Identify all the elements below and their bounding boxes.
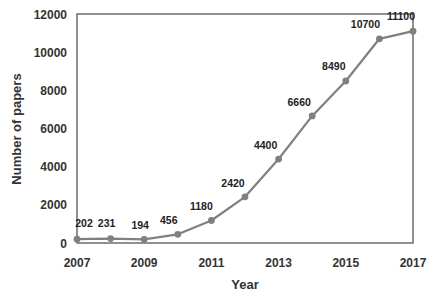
line-chart: 020004000600080001000012000 200720092011…: [0, 0, 437, 302]
data-label: 6660: [288, 96, 312, 108]
x-tick-label: 2011: [198, 256, 224, 270]
y-axis-ticks: 020004000600080001000012000: [34, 8, 68, 251]
data-point-marker: [174, 231, 181, 238]
x-tick-label: 2009: [131, 256, 158, 270]
plot-area-frame: [77, 14, 413, 243]
x-tick-label: 2015: [332, 256, 359, 270]
x-tick-label: 2017: [400, 256, 427, 270]
data-label: 456: [160, 214, 178, 226]
data-point-marker: [309, 113, 316, 120]
plot-border: [77, 14, 413, 243]
y-axis-title: Number of papers: [9, 73, 24, 184]
data-label: 4400: [254, 139, 278, 151]
x-axis-title: Year: [231, 277, 258, 292]
data-point-marker: [208, 217, 215, 224]
y-tick-label: 2000: [40, 198, 67, 212]
x-axis-ticks: 200720092011201320152017: [64, 256, 427, 270]
data-point-marker: [410, 28, 417, 35]
data-label: 194: [131, 219, 149, 231]
series-polyline: [77, 31, 413, 239]
data-point-marker: [141, 236, 148, 243]
data-point-marker: [242, 193, 249, 200]
data-point-marker: [74, 236, 81, 243]
data-label: 11100: [387, 10, 415, 22]
x-tick-label: 2007: [64, 256, 91, 270]
y-tick-label: 8000: [40, 84, 67, 98]
data-point-marker: [376, 35, 383, 42]
y-tick-label: 10000: [34, 46, 68, 60]
y-tick-label: 12000: [34, 8, 68, 22]
y-tick-label: 6000: [40, 122, 67, 136]
series-line: [74, 28, 417, 243]
x-tick-label: 2013: [265, 256, 292, 270]
data-point-marker: [275, 156, 282, 163]
data-point-marker: [342, 78, 349, 85]
data-label: 231: [98, 217, 116, 229]
data-label: 8490: [322, 60, 346, 72]
data-label: 2420: [221, 177, 245, 189]
data-label: 1180: [190, 200, 213, 212]
y-tick-label: 4000: [40, 160, 67, 174]
data-point-marker: [107, 235, 114, 242]
data-label: 202: [75, 217, 93, 229]
y-tick-label: 0: [60, 237, 67, 251]
data-label: 10700: [351, 18, 380, 30]
